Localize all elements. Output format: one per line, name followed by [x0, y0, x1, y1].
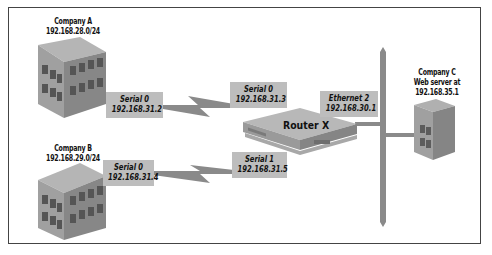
company-b-building-icon: [38, 163, 106, 240]
label-company-b-serial0: Serial 0 192.168.31.4: [103, 160, 154, 186]
iface-name: Serial 1: [238, 154, 282, 164]
company-a-name: Company A: [28, 16, 118, 26]
ethernet-backbone: [380, 47, 386, 227]
company-b-name: Company B: [28, 143, 118, 153]
iface-name: Ethernet 2: [326, 93, 372, 103]
network-diagram: Company A 192.168.28.0/24 Company B 192.…: [0, 0, 492, 255]
company-a-building-icon: [38, 37, 106, 118]
diagram-graphics: [0, 0, 492, 255]
label-router-serial1: Serial 1 192.168.31.5: [232, 152, 287, 178]
web-server-icon: [414, 99, 455, 160]
serial-link-b: [153, 165, 234, 183]
company-c-desc: Web server at: [407, 77, 468, 87]
company-a-network: 192.168.28.0/24: [28, 26, 118, 36]
iface-name: Serial 0: [112, 94, 158, 104]
label-router-serial0: Serial 0 192.168.31.3: [230, 82, 287, 108]
iface-ip: 192.168.31.3: [236, 94, 282, 104]
company-c-address: 192.168.35.1: [407, 87, 468, 97]
iface-ip: 192.168.31.5: [238, 164, 282, 174]
company-a-caption: Company A 192.168.28.0/24: [28, 16, 118, 36]
label-router-ethernet2: Ethernet 2 192.168.30.1: [320, 91, 378, 117]
iface-ip: 192.168.31.4: [108, 172, 149, 182]
company-c-name: Company C: [407, 67, 468, 77]
serial-link-a: [163, 96, 234, 117]
router-ethernet-link: [355, 122, 381, 126]
label-company-a-serial0: Serial 0 192.168.31.2: [106, 92, 163, 118]
iface-ip: 192.168.31.2: [112, 104, 158, 114]
server-ethernet-link: [386, 133, 414, 137]
router-name: Router X: [283, 119, 329, 132]
iface-name: Serial 0: [236, 84, 282, 94]
iface-name: Serial 0: [108, 162, 149, 172]
iface-ip: 192.168.30.1: [326, 103, 372, 113]
company-c-caption: Company C Web server at 192.168.35.1: [407, 67, 468, 97]
